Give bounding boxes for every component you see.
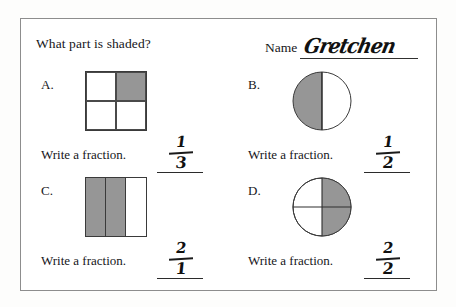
answer-slot[interactable]: 1 3 — [157, 121, 205, 173]
answer-slot[interactable]: 1 2 — [364, 121, 412, 173]
student-name-handwriting: Gretchen — [302, 33, 397, 57]
write-fraction-label: Write a fraction. — [248, 147, 333, 163]
name-input-line[interactable]: Gretchen — [300, 33, 418, 59]
problem-letter: A. — [41, 77, 54, 93]
fraction-numerator: 2 — [166, 241, 196, 256]
strip — [126, 178, 146, 236]
figure-circle-quarters — [292, 177, 356, 241]
fraction-denominator: 3 — [166, 155, 196, 171]
circle-halves-icon — [292, 71, 352, 131]
worksheet-page: What part is shaded? Name Gretchen A. Wr… — [20, 18, 437, 291]
circle-quarters-icon — [292, 177, 352, 237]
fraction-numerator: 1 — [166, 135, 196, 150]
problem-d: D. Write a fraction. 2 2 — [236, 177, 436, 280]
answer-slot[interactable]: 2 2 — [364, 227, 412, 279]
answer-slot[interactable]: 2 1 — [157, 227, 205, 279]
problem-b: B. Write a fraction. 1 2 — [236, 71, 436, 174]
figure-circle-halves — [292, 71, 356, 135]
answer-underline — [157, 278, 203, 279]
answer-underline — [364, 172, 410, 173]
name-label: Name — [265, 40, 297, 59]
problem-c: C. Write a fraction. 2 1 — [29, 177, 229, 280]
figure-square-2x2 — [85, 71, 149, 135]
handwritten-fraction: 1 2 — [374, 135, 402, 171]
problem-a: A. Write a fraction. 1 3 — [29, 71, 229, 174]
grid-cell — [116, 101, 146, 130]
write-fraction-label: Write a fraction. — [41, 147, 126, 163]
worksheet-header: What part is shaded? Name Gretchen — [21, 33, 436, 63]
write-fraction-label: Write a fraction. — [248, 253, 333, 269]
problem-letter: D. — [248, 183, 261, 199]
page-title: What part is shaded? — [36, 36, 151, 52]
handwritten-fraction: 2 2 — [374, 241, 402, 277]
answer-underline — [157, 172, 203, 173]
problem-letter: C. — [41, 183, 53, 199]
problem-letter: B. — [248, 77, 260, 93]
write-fraction-label: Write a fraction. — [41, 253, 126, 269]
grid-cell — [86, 101, 116, 130]
grid-cell-shaded — [116, 72, 146, 101]
figure-rect-3-strips — [85, 177, 149, 241]
handwritten-fraction: 1 3 — [167, 135, 195, 171]
fraction-numerator: 2 — [373, 241, 403, 256]
grid-cell — [86, 72, 116, 101]
name-field-group: Name Gretchen — [265, 33, 418, 59]
fraction-denominator: 2 — [373, 261, 403, 277]
answer-underline — [364, 278, 410, 279]
handwritten-fraction: 2 1 — [167, 241, 195, 277]
fraction-numerator: 1 — [373, 135, 403, 150]
fraction-denominator: 1 — [166, 261, 196, 277]
strip-shaded — [86, 178, 106, 236]
strip-shaded — [106, 178, 126, 236]
fraction-denominator: 2 — [373, 155, 403, 171]
